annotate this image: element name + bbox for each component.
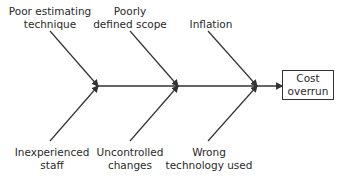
cause-text: Poorly	[93, 5, 167, 18]
rib-top-3	[208, 31, 257, 86]
cause-label-inflation: Inflation	[190, 18, 233, 31]
cause-text: Wrong	[166, 146, 253, 159]
rib-top-1	[50, 31, 98, 86]
cause-text: Inflation	[190, 18, 233, 31]
cause-text: Poor estimating	[9, 5, 91, 18]
rib-top-2	[130, 31, 178, 86]
cause-text: technology used	[166, 159, 253, 172]
cause-text: Uncontrolled	[97, 146, 164, 159]
cause-text: technique	[9, 18, 91, 31]
cause-label-uncontrolled-changes: Uncontrolled changes	[97, 146, 164, 172]
cause-label-poorly-defined-scope: Poorly defined scope	[93, 5, 167, 31]
rib-bottom-1	[50, 86, 98, 141]
rib-bottom-2	[130, 86, 178, 141]
cause-text: Inexperienced	[15, 146, 90, 159]
effect-text: Cost	[296, 72, 319, 85]
cause-text: staff	[15, 159, 90, 172]
cause-text: defined scope	[93, 18, 167, 31]
cause-label-wrong-technology: Wrong technology used	[166, 146, 253, 172]
cause-text: changes	[97, 159, 164, 172]
cause-label-poor-estimating: Poor estimating technique	[9, 5, 91, 31]
effect-box: Cost overrun	[282, 70, 334, 100]
effect-text: overrun	[288, 85, 329, 98]
cause-label-inexperienced-staff: Inexperienced staff	[15, 146, 90, 172]
rib-bottom-3	[208, 86, 257, 141]
